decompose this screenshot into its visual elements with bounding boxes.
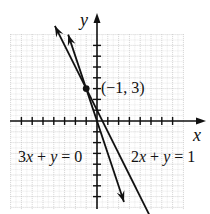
line-label-2x-plus-y-eq-1: 2x + y = 1 — [131, 148, 195, 166]
y-axis-label: y — [78, 10, 88, 30]
line2-x: x — [138, 148, 146, 165]
point-label: (−1, 3) — [101, 79, 145, 97]
graph: y x (−1, 3) 3x + y = 0 2x + y = 1 — [0, 0, 210, 214]
intersection-point — [83, 85, 90, 92]
line-label-3x-plus-y-eq-0: 3x + y = 0 — [18, 148, 82, 166]
x-axis-label: x — [192, 125, 201, 145]
line-1 — [68, 35, 124, 202]
line2-plus: + — [146, 148, 163, 165]
line1-coef: 3 — [18, 148, 26, 165]
line1-rhs: = 0 — [57, 148, 82, 165]
line2-coef: 2 — [131, 148, 139, 165]
line2-rhs: = 1 — [170, 148, 195, 165]
line1-x: x — [25, 148, 33, 165]
line1-plus: + — [33, 148, 50, 165]
